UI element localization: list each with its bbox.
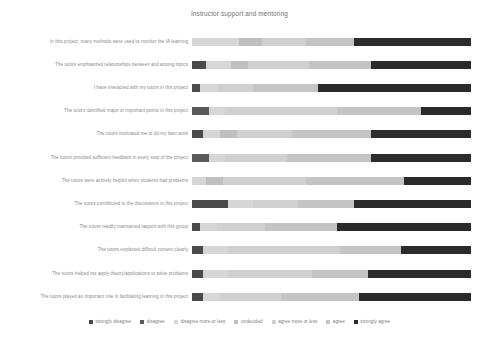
bar-segment (192, 246, 203, 254)
bar-segment (312, 270, 368, 278)
bar-segment (262, 38, 307, 46)
chart-title: Instructor support and mentoring (0, 10, 479, 17)
bar-track (192, 270, 471, 278)
chart-legend: strongly disagreedisagreedisagree more o… (0, 319, 479, 324)
bar-segment (298, 200, 354, 208)
bar-segment (253, 84, 317, 92)
bar-segment (265, 223, 338, 231)
bar-segment (231, 61, 248, 69)
bar-row-label: The tutors helped me apply theory/applic… (0, 271, 192, 277)
bar-row: The tutors emphasized relationships betw… (0, 53, 479, 76)
bar-segment (225, 154, 286, 162)
bar-row: The tutors contributed to the discussion… (0, 192, 479, 215)
legend-label: strongly disagree (95, 319, 131, 324)
legend-swatch-icon (326, 320, 330, 324)
bar-segment (248, 61, 309, 69)
legend-label: undecided (241, 319, 263, 324)
bar-track (192, 293, 471, 301)
bar-track (192, 200, 471, 208)
legend-item[interactable]: strongly agree (354, 319, 390, 324)
bar-segment (421, 107, 471, 115)
legend-label: strongly agree (360, 319, 390, 324)
bar-row-label: The tutors contributed to the discussion… (0, 201, 192, 207)
bar-row: The tutors were actively helpful when st… (0, 169, 479, 192)
bar-segment (337, 107, 421, 115)
bar-segment (354, 200, 471, 208)
bar-track (192, 107, 471, 115)
bar-segment (371, 154, 471, 162)
bar-segment (192, 293, 203, 301)
legend-item[interactable]: disagree (140, 319, 165, 324)
legend-label: disagree (147, 319, 165, 324)
bar-row: The tutors helped me apply theory/applic… (0, 262, 479, 285)
bar-segment (237, 130, 293, 138)
bar-row-label: The tutors motivated me to do my best wo… (0, 131, 192, 137)
bar-segment (200, 223, 217, 231)
bar-segment (371, 130, 471, 138)
legend-item[interactable]: strongly disagree (89, 319, 131, 324)
legend-item[interactable]: agree more or less (272, 319, 318, 324)
bar-segment (228, 200, 253, 208)
plot-area: In this project, many methods were used … (0, 30, 479, 310)
legend-swatch-icon (234, 320, 238, 324)
bar-segment (354, 38, 471, 46)
bar-segment (253, 200, 298, 208)
bar-segment (306, 38, 353, 46)
bar-segment (368, 270, 471, 278)
bar-row-label: The tutors readily maintained rapport wi… (0, 224, 192, 230)
bar-segment (192, 223, 200, 231)
legend-label: agree more or less (278, 319, 317, 324)
bar-row-label: The tutors were actively helpful when st… (0, 178, 192, 184)
bar-row: The tutors explained difficult content c… (0, 239, 479, 262)
bar-segment (209, 154, 226, 162)
bar-segment (203, 270, 228, 278)
bar-segment (192, 107, 209, 115)
bar-segment (287, 154, 371, 162)
legend-swatch-icon (272, 320, 276, 324)
bar-segment (206, 61, 231, 69)
bar-segment (281, 293, 359, 301)
bar-row-label: I have interacted with my tutors in this… (0, 85, 192, 91)
bar-row: I have interacted with my tutors in this… (0, 76, 479, 99)
bar-track (192, 223, 471, 231)
bar-row-label: The tutors emphasized relationships betw… (0, 62, 192, 68)
legend-swatch-icon (89, 320, 93, 324)
bar-row-label: The tutors identified major or important… (0, 108, 192, 114)
bar-segment (225, 107, 337, 115)
bar-segment (192, 84, 200, 92)
legend-item[interactable]: disagree more or less (174, 319, 226, 324)
bar-segment (192, 38, 239, 46)
bar-segment (220, 293, 281, 301)
bar-segment (203, 246, 228, 254)
legend-label: agree (333, 319, 345, 324)
bar-segment (192, 270, 203, 278)
legend-label: disagree more or less (180, 319, 225, 324)
bar-segment (192, 154, 209, 162)
bar-row: In this project, many methods were used … (0, 30, 479, 53)
bar-track (192, 130, 471, 138)
bar-segment (359, 293, 471, 301)
bar-segment (228, 246, 340, 254)
bar-track (192, 246, 471, 254)
bar-segment (192, 61, 206, 69)
bar-segment (337, 223, 471, 231)
bar-segment (306, 177, 404, 185)
bar-segment (401, 246, 471, 254)
bar-row-label: The tutors played an important role in f… (0, 294, 192, 300)
bar-segment (371, 61, 471, 69)
bar-segment (217, 223, 264, 231)
legend-swatch-icon (174, 320, 178, 324)
legend-item[interactable]: agree (326, 319, 345, 324)
bar-row-label: The tutors provided sufficient feedback … (0, 155, 192, 161)
bar-row-label: In this project, many methods were used … (0, 39, 192, 45)
bar-track (192, 154, 471, 162)
legend-swatch-icon (140, 320, 144, 324)
bar-row-label: The tutors explained difficult content c… (0, 247, 192, 253)
bar-segment (203, 293, 220, 301)
legend-item[interactable]: undecided (234, 319, 262, 324)
bar-track (192, 84, 471, 92)
bar-segment (200, 84, 217, 92)
bar-segment (239, 38, 261, 46)
bar-segment (206, 177, 223, 185)
bar-segment (223, 177, 307, 185)
